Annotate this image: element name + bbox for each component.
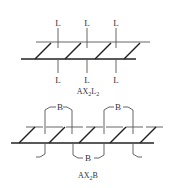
diagonal-bond [95,43,111,59]
ligand-label: L [55,75,61,85]
ligand-label: L [113,75,119,85]
diagonal-bond [79,127,95,143]
diagonal-bond [35,43,51,59]
bridge-bond-partial [133,143,142,157]
bridge-label: B [57,102,63,112]
bridge-bond [104,107,114,134]
bridge-bond [73,143,83,158]
bridge-bond [123,107,133,134]
ligand-label: L [84,75,90,85]
ligand-label: L [113,18,119,28]
bridge-bond-partial [36,143,45,157]
bridge-label: B [85,153,91,163]
bridge-bond [45,107,56,134]
caption-ax2l2: AX2L2 [77,87,99,97]
bridge-label: B [115,102,121,112]
diagonal-bond [19,127,35,143]
diagram-ax2l2: L L L L L L AX2L2 [21,18,150,97]
ligand-label: L [55,18,61,28]
diagonal-bond [110,127,126,143]
diagonal-bond [49,127,65,143]
diagonal-bond [124,43,140,59]
diagonal-bond [140,127,156,143]
coordination-diagrams: L L L L L L AX2L2 B B B AX2B [0,0,176,188]
caption-ax2b: AX2B [78,171,98,181]
bridge-bond [94,143,104,158]
ligand-label: L [84,18,90,28]
diagram-ax2b: B B B AX2B [11,102,165,181]
diagonal-bond [65,43,81,59]
bridge-bond [63,107,72,134]
